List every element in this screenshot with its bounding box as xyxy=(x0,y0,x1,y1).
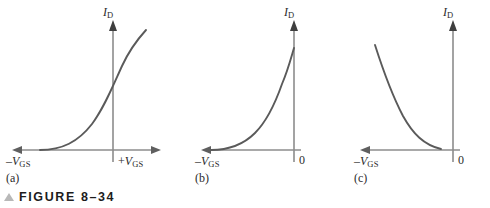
panel-letter-a: (a) xyxy=(6,172,19,184)
y-axis-label-b: ID xyxy=(284,6,294,20)
y-axis-label-a: ID xyxy=(103,6,113,20)
panel-letter-c: (c) xyxy=(354,172,367,184)
panel-a: –VGS +VGS ID (a) xyxy=(0,0,163,180)
y-axis-label-c: ID xyxy=(443,6,453,20)
origin-label-b: 0 xyxy=(299,154,305,166)
panel-b: –VGS 0 ID (b) xyxy=(163,0,326,180)
x-axis-label-left-c: –VGS xyxy=(354,155,379,169)
figure-caption: FIGURE 8–34 xyxy=(0,186,490,208)
figure-caption-text: FIGURE 8–34 xyxy=(19,190,115,204)
triangle-up-icon xyxy=(4,193,14,201)
transfer-curve-a xyxy=(40,30,146,150)
y-axis-up-arrow-icon xyxy=(290,20,298,31)
panel-letter-b: (b) xyxy=(195,172,209,184)
panel-c: –VGS 0 ID (c) xyxy=(326,0,489,180)
x-axis-label-left-b: –VGS xyxy=(195,155,220,169)
x-axis-label-right-a: +VGS xyxy=(118,155,143,169)
x-axis-right-arrow-icon xyxy=(151,146,161,154)
y-axis-up-arrow-icon xyxy=(109,20,117,31)
x-axis-left-arrow-icon xyxy=(360,146,370,154)
origin-label-c: 0 xyxy=(458,154,464,166)
x-axis-left-arrow-icon xyxy=(12,146,22,154)
transfer-curve-c xyxy=(375,45,441,149)
panel-a-plot xyxy=(0,0,163,180)
transfer-curve-b xyxy=(211,48,294,150)
figure-container: –VGS +VGS ID (a) –VGS 0 ID (b) xyxy=(0,0,490,208)
y-axis-up-arrow-icon xyxy=(449,20,457,31)
x-axis-left-arrow-icon xyxy=(201,146,211,154)
panel-c-plot xyxy=(326,0,490,180)
x-axis-label-left-a: –VGS xyxy=(6,155,31,169)
